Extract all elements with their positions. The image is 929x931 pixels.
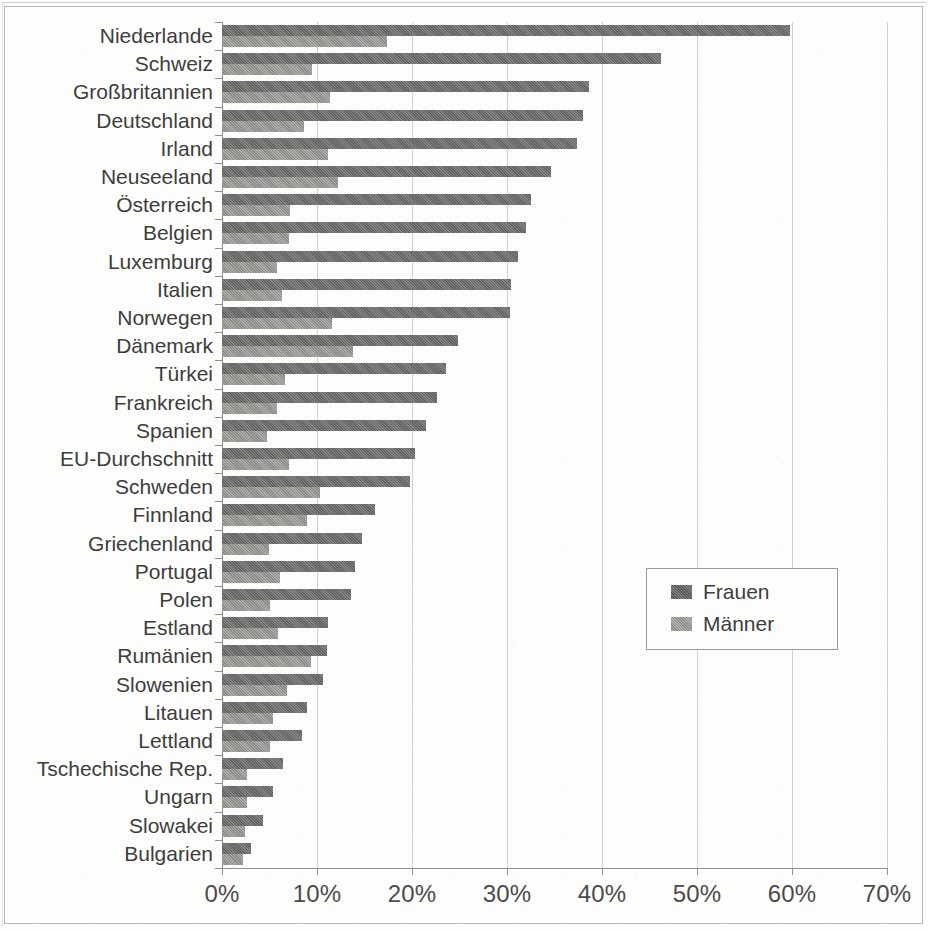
bar-frauen-14[interactable] <box>222 420 426 431</box>
bar-männer-17[interactable] <box>222 515 307 526</box>
bar-frauen-6[interactable] <box>222 194 531 205</box>
bar-frauen-29[interactable] <box>222 843 251 854</box>
bar-frauen-25[interactable] <box>222 730 302 741</box>
bar-frauen-26[interactable] <box>222 758 283 769</box>
bar-frauen-19[interactable] <box>222 561 355 572</box>
bar-männer-10[interactable] <box>222 318 332 329</box>
x-tick-10% <box>317 868 318 875</box>
x-tick-70% <box>887 868 888 875</box>
y-tick-4 <box>215 135 222 136</box>
bar-frauen-24[interactable] <box>222 702 307 713</box>
bar-frauen-5[interactable] <box>222 166 551 177</box>
legend-label-maenner: Männer <box>703 612 774 636</box>
bar-frauen-15[interactable] <box>222 448 415 459</box>
bar-row <box>222 530 887 558</box>
bar-frauen-28[interactable] <box>222 815 263 826</box>
category-label-6: Österreich <box>12 191 222 219</box>
bar-frauen-2[interactable] <box>222 81 589 92</box>
bar-frauen-8[interactable] <box>222 251 518 262</box>
bar-männer-2[interactable] <box>222 92 330 103</box>
bar-row <box>222 671 887 699</box>
bar-männer-0[interactable] <box>222 36 387 47</box>
bar-männer-22[interactable] <box>222 656 311 667</box>
bar-männer-18[interactable] <box>222 544 269 555</box>
bar-frauen-22[interactable] <box>222 645 327 656</box>
bar-frauen-23[interactable] <box>222 674 323 685</box>
bar-row <box>222 699 887 727</box>
bar-row <box>222 727 887 755</box>
bar-männer-29[interactable] <box>222 854 243 865</box>
horizontal-bar-chart: NiederlandeSchweizGroßbritannienDeutschl… <box>0 0 929 931</box>
y-tick-5 <box>215 163 222 164</box>
y-tick-9 <box>215 276 222 277</box>
bar-frauen-17[interactable] <box>222 504 375 515</box>
bar-männer-11[interactable] <box>222 346 353 357</box>
gridline-70% <box>887 22 888 868</box>
y-tick-11 <box>215 332 222 333</box>
y-tick-26 <box>215 755 222 756</box>
bar-frauen-27[interactable] <box>222 786 273 797</box>
bar-frauen-9[interactable] <box>222 279 511 290</box>
bar-männer-25[interactable] <box>222 741 270 752</box>
bar-frauen-7[interactable] <box>222 222 526 233</box>
bar-männer-23[interactable] <box>222 685 287 696</box>
bar-männer-20[interactable] <box>222 600 270 611</box>
bar-männer-24[interactable] <box>222 713 273 724</box>
y-tick-23 <box>215 671 222 672</box>
bar-frauen-12[interactable] <box>222 363 446 374</box>
y-tick-19 <box>215 558 222 559</box>
bar-männer-21[interactable] <box>222 628 278 639</box>
bar-männer-27[interactable] <box>222 797 247 808</box>
y-tick-22 <box>215 642 222 643</box>
bar-männer-8[interactable] <box>222 262 277 273</box>
category-label-15: EU-Durchschnitt <box>12 445 222 473</box>
bar-männer-3[interactable] <box>222 121 304 132</box>
category-label-0: Niederlande <box>12 22 222 50</box>
bar-männer-9[interactable] <box>222 290 282 301</box>
bar-frauen-3[interactable] <box>222 110 583 121</box>
legend-item-maenner[interactable]: Männer <box>671 613 774 635</box>
bar-frauen-4[interactable] <box>222 138 577 149</box>
bar-frauen-16[interactable] <box>222 476 410 487</box>
y-tick-12 <box>215 360 222 361</box>
legend-item-frauen[interactable]: Frauen <box>671 581 770 603</box>
y-tick-15 <box>215 445 222 446</box>
y-tick-25 <box>215 727 222 728</box>
bar-männer-6[interactable] <box>222 205 290 216</box>
bar-männer-15[interactable] <box>222 459 289 470</box>
bar-frauen-10[interactable] <box>222 307 510 318</box>
bar-row <box>222 812 887 840</box>
y-tick-1 <box>215 50 222 51</box>
bar-männer-7[interactable] <box>222 233 289 244</box>
bar-frauen-21[interactable] <box>222 617 328 628</box>
bar-row <box>222 304 887 332</box>
bar-frauen-11[interactable] <box>222 335 458 346</box>
x-tick-label-40%: 40% <box>562 880 642 908</box>
y-tick-16 <box>215 473 222 474</box>
bar-row <box>222 107 887 135</box>
legend-swatch-frauen <box>671 585 692 599</box>
bar-row <box>222 501 887 529</box>
bar-frauen-18[interactable] <box>222 533 362 544</box>
bar-frauen-0[interactable] <box>222 25 790 36</box>
bar-männer-12[interactable] <box>222 374 285 385</box>
category-label-1: Schweiz <box>12 50 222 78</box>
bar-männer-13[interactable] <box>222 403 277 414</box>
bar-row <box>222 473 887 501</box>
bar-männer-14[interactable] <box>222 431 267 442</box>
category-label-16: Schweden <box>12 473 222 501</box>
category-label-17: Finnland <box>12 501 222 529</box>
bar-männer-4[interactable] <box>222 149 328 160</box>
bar-männer-26[interactable] <box>222 769 247 780</box>
bar-männer-5[interactable] <box>222 177 338 188</box>
category-label-2: Großbritannien <box>12 78 222 106</box>
y-tick-21 <box>215 614 222 615</box>
bar-männer-1[interactable] <box>222 64 312 75</box>
bar-frauen-13[interactable] <box>222 392 437 403</box>
bar-männer-16[interactable] <box>222 487 320 498</box>
bar-frauen-1[interactable] <box>222 53 661 64</box>
bar-männer-28[interactable] <box>222 826 245 837</box>
bar-männer-19[interactable] <box>222 572 280 583</box>
bar-frauen-20[interactable] <box>222 589 351 600</box>
x-tick-label-0%: 0% <box>182 880 262 908</box>
